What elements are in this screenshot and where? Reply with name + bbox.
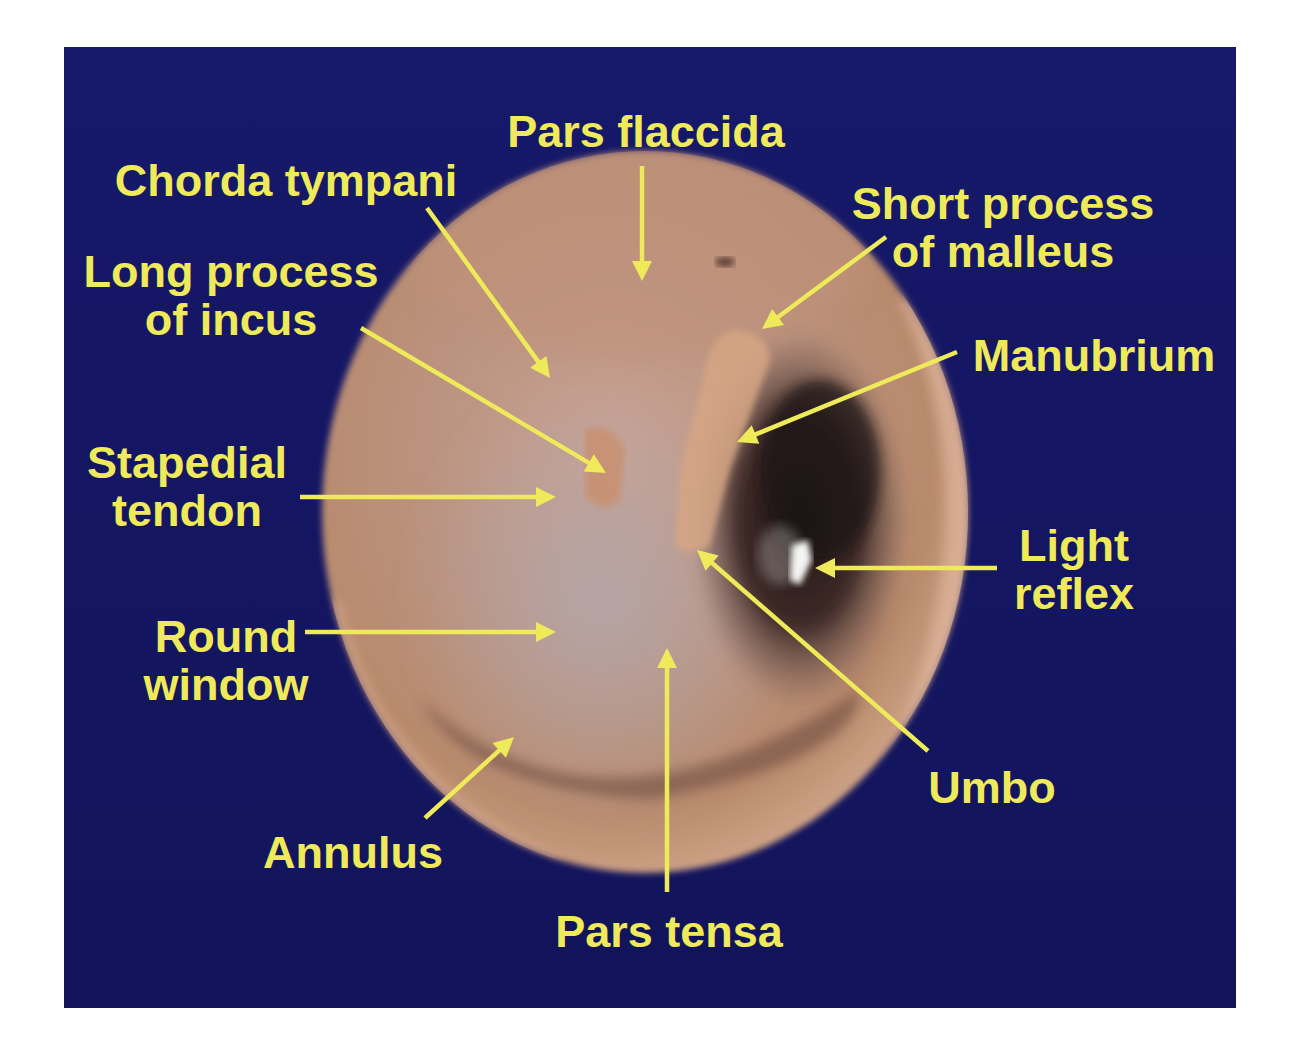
label-line: Umbo	[928, 762, 1056, 813]
label-round-window: Roundwindow	[143, 611, 310, 710]
label-line: Stapedial	[87, 437, 287, 488]
label-line: Round	[155, 611, 297, 662]
label-line: Manubrium	[973, 330, 1216, 381]
label-line: window	[143, 659, 310, 710]
label-line: Long process	[83, 246, 378, 297]
label-umbo: Umbo	[928, 762, 1056, 813]
label-line: reflex	[1014, 568, 1134, 619]
label-line: Short process	[852, 178, 1155, 229]
label-stapedial-tendon: Stapedialtendon	[87, 437, 287, 536]
label-line: Light	[1019, 520, 1129, 571]
label-manubrium: Manubrium	[973, 330, 1216, 381]
tympanic-membrane-diagram: Pars flaccidaChorda tympaniShort process…	[0, 0, 1292, 1055]
label-line: Pars tensa	[555, 906, 784, 957]
label-line: Chorda tympani	[115, 155, 458, 206]
label-line: Annulus	[263, 827, 443, 878]
label-line: of malleus	[892, 226, 1115, 277]
label-chorda-tympani: Chorda tympani	[115, 155, 458, 206]
label-pars-flaccida: Pars flaccida	[507, 106, 786, 157]
label-pars-tensa: Pars tensa	[555, 906, 784, 957]
label-annulus: Annulus	[263, 827, 443, 878]
label-line: Pars flaccida	[507, 106, 786, 157]
label-short-process-of-malleus: Short processof malleus	[852, 178, 1155, 277]
label-line: tendon	[112, 485, 262, 536]
label-light-reflex: Lightreflex	[1014, 520, 1134, 619]
label-line: of incus	[145, 294, 318, 345]
